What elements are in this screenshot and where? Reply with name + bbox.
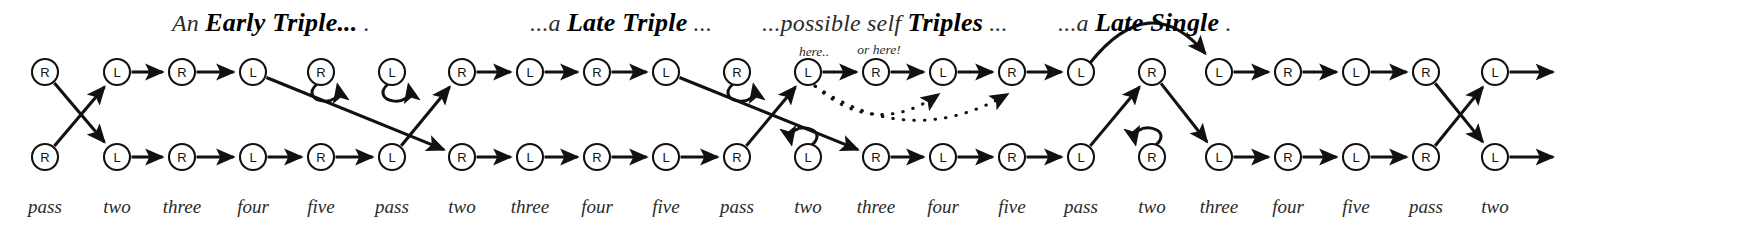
right-foot-label: R — [457, 65, 466, 80]
left-foot-label: L — [388, 150, 395, 165]
heading-lead: ...possible self — [762, 10, 907, 36]
state-node-top[interactable]: R — [584, 59, 610, 85]
right-foot-label: R — [732, 65, 741, 80]
state-node-bottom[interactable]: L — [517, 144, 543, 170]
state-node-bottom[interactable]: R — [584, 144, 610, 170]
state-node-top[interactable]: L — [1343, 59, 1369, 85]
state-node-bottom[interactable]: L — [1482, 144, 1508, 170]
right-foot-label: R — [732, 150, 741, 165]
state-node-bottom[interactable]: R — [169, 144, 195, 170]
transition-arrow — [266, 77, 444, 149]
right-foot-label: R — [592, 65, 601, 80]
column-label: pass — [1062, 196, 1098, 217]
right-foot-label: R — [871, 65, 880, 80]
state-node-bottom[interactable]: R — [449, 144, 475, 170]
transition-arrow — [1161, 83, 1207, 141]
right-foot-label: R — [40, 65, 49, 80]
state-node-top[interactable]: L — [240, 59, 266, 85]
state-node-bottom[interactable]: R — [308, 144, 334, 170]
column-label: two — [103, 196, 130, 217]
self-loop-arrow — [383, 84, 409, 101]
transition-arrow — [54, 87, 104, 146]
left-foot-label: L — [939, 150, 946, 165]
state-node-top[interactable]: L — [379, 59, 405, 85]
dotted-self-triple-arrow — [815, 86, 1008, 120]
column-label: five — [1342, 196, 1369, 217]
heading-trail: ... — [983, 10, 1008, 36]
state-node-bottom[interactable]: L — [653, 144, 679, 170]
right-foot-label: R — [592, 150, 601, 165]
heading-trail: ... — [687, 10, 712, 36]
state-node-bottom[interactable]: L — [1068, 144, 1094, 170]
state-node-top[interactable]: R — [999, 59, 1025, 85]
right-foot-label: R — [871, 150, 880, 165]
self-loop-arrow — [1135, 128, 1161, 145]
left-foot-label: L — [526, 65, 533, 80]
state-node-bottom[interactable]: L — [1343, 144, 1369, 170]
left-foot-label: L — [804, 65, 811, 80]
state-node-bottom[interactable]: L — [1206, 144, 1232, 170]
left-foot-label: L — [526, 150, 533, 165]
column-label: three — [163, 196, 201, 217]
state-node-bottom[interactable]: L — [104, 144, 130, 170]
state-node-top[interactable]: L — [104, 59, 130, 85]
state-node-bottom[interactable]: R — [863, 144, 889, 170]
state-node-bottom[interactable]: L — [240, 144, 266, 170]
transition-arrow — [54, 83, 104, 142]
heading-late-triple: ...a Late Triple ... — [530, 8, 712, 38]
state-node-bottom[interactable]: R — [32, 144, 58, 170]
left-foot-label: L — [388, 65, 395, 80]
right-foot-label: R — [1421, 65, 1430, 80]
column-label: pass — [1407, 196, 1443, 217]
state-node-top[interactable]: R — [449, 59, 475, 85]
column-label: three — [511, 196, 549, 217]
state-node-top[interactable]: R — [32, 59, 58, 85]
state-node-top[interactable]: L — [517, 59, 543, 85]
state-node-bottom[interactable]: L — [795, 144, 821, 170]
left-foot-label: L — [662, 150, 669, 165]
left-foot-label: L — [1077, 150, 1084, 165]
transition-arrow — [1435, 83, 1483, 142]
state-node-top[interactable]: L — [1206, 59, 1232, 85]
state-node-top[interactable]: L — [1068, 59, 1094, 85]
heading-late-single: ...a Late Single . — [1058, 8, 1232, 38]
state-node-top[interactable]: R — [1275, 59, 1301, 85]
state-node-bottom[interactable]: R — [999, 144, 1025, 170]
state-node-top[interactable]: L — [653, 59, 679, 85]
right-foot-label: R — [1283, 65, 1292, 80]
column-label: two — [448, 196, 475, 217]
left-foot-label: L — [1215, 150, 1222, 165]
right-foot-label: R — [177, 150, 186, 165]
column-labels-layer: passtwothreefourfivepasstwothreefourfive… — [26, 196, 1509, 217]
column-label: four — [237, 196, 269, 217]
state-node-bottom[interactable]: L — [379, 144, 405, 170]
state-node-bottom[interactable]: R — [1139, 144, 1165, 170]
state-node-bottom[interactable]: R — [724, 144, 750, 170]
column-label: four — [581, 196, 613, 217]
heading-trail: . — [1219, 10, 1231, 36]
right-foot-label: R — [1147, 150, 1156, 165]
state-node-top[interactable]: R — [724, 59, 750, 85]
state-node-top[interactable]: L — [930, 59, 956, 85]
state-node-top[interactable]: L — [795, 59, 821, 85]
transition-arrow — [679, 77, 857, 149]
left-foot-label: L — [1215, 65, 1222, 80]
heading-emphasis: Late Single — [1095, 8, 1219, 37]
right-foot-label: R — [1421, 150, 1430, 165]
state-node-top[interactable]: R — [863, 59, 889, 85]
state-node-top[interactable]: R — [169, 59, 195, 85]
state-node-bottom[interactable]: R — [1275, 144, 1301, 170]
state-node-top[interactable]: R — [1413, 59, 1439, 85]
right-foot-label: R — [316, 150, 325, 165]
right-foot-label: R — [1283, 150, 1292, 165]
state-node-bottom[interactable]: R — [1413, 144, 1439, 170]
transition-arrow — [1090, 87, 1139, 146]
state-node-top[interactable]: R — [308, 59, 334, 85]
left-foot-label: L — [662, 65, 669, 80]
right-foot-label: R — [1007, 65, 1016, 80]
state-node-top[interactable]: R — [1139, 59, 1165, 85]
state-node-top[interactable]: L — [1482, 59, 1508, 85]
callout-or-here: or here! — [857, 42, 900, 57]
left-foot-label: L — [1491, 65, 1498, 80]
state-node-bottom[interactable]: L — [930, 144, 956, 170]
